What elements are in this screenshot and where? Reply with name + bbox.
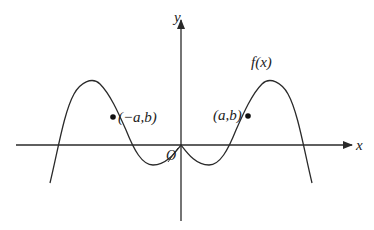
x-axis-label: x	[355, 137, 363, 153]
point-neg-a-b-dot	[110, 114, 116, 120]
point-neg-a-b-label: (−a,b)	[118, 109, 157, 126]
point-a-b-label: (a,b)	[213, 107, 242, 124]
function-graph: y x O f(x) (−a,b) (a,b)	[0, 0, 374, 230]
function-label: f(x)	[251, 54, 272, 71]
y-axis-label: y	[172, 9, 181, 25]
point-a-b-dot	[245, 113, 251, 119]
origin-label: O	[166, 148, 176, 163]
